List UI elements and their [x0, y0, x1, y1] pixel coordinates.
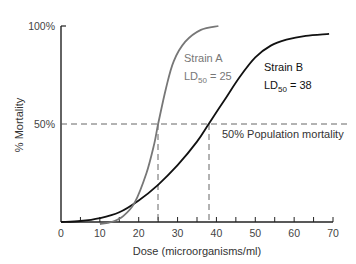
x-tick-label: 50: [249, 227, 261, 239]
x-tick-label: 0: [58, 227, 64, 239]
strain-b-ld50: LD50 = 38: [264, 79, 312, 94]
population-mortality-label: 50% Population mortality: [222, 128, 344, 140]
x-tick-label: 30: [172, 227, 184, 239]
x-tick-label: 60: [288, 227, 300, 239]
y-label-50: 50%: [34, 118, 55, 130]
x-axis-title: Dose (microorganisms/ml): [133, 245, 261, 257]
x-tick-labels: 010203040506070: [58, 227, 339, 239]
x-tick-label: 10: [94, 227, 106, 239]
y-label-100: 100%: [28, 20, 55, 32]
x-tick-label: 20: [133, 227, 145, 239]
mortality-chart: 100% 50% % Mortality 010203040506070 Dos…: [0, 0, 356, 264]
strain-a-label: Strain A: [184, 52, 223, 64]
x-tick-label: 40: [211, 227, 223, 239]
x-tick-label: 70: [327, 227, 339, 239]
strain-b-label: Strain B: [264, 61, 303, 73]
y-axis-title: % Mortality: [13, 97, 25, 152]
strain-a-ld50: LD50 = 25: [184, 70, 232, 85]
